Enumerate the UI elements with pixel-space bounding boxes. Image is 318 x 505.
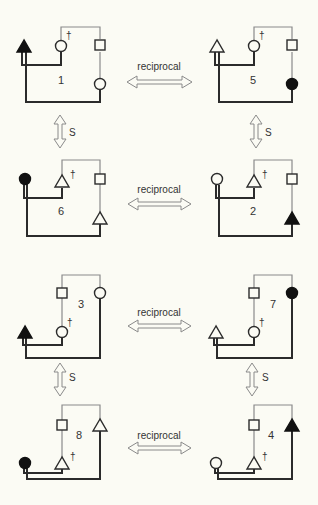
diagram-6: † 6 (20, 160, 108, 236)
dagger-mark: † (262, 451, 268, 462)
triangle-icon (210, 40, 224, 52)
reciprocal-label: reciprocal (137, 61, 180, 72)
circle-icon (249, 327, 260, 338)
square-icon (249, 420, 259, 430)
dagger-mark: † (259, 30, 265, 41)
square-icon (95, 40, 105, 50)
reciprocal-label: reciprocal (137, 307, 180, 318)
thick-line (27, 431, 100, 479)
triangle-icon (93, 419, 107, 431)
square-icon (249, 288, 259, 298)
square-icon (57, 420, 67, 430)
circle-icon (212, 174, 223, 185)
triangle-icon (247, 175, 261, 187)
thick-line (22, 51, 61, 65)
dagger-mark: † (66, 30, 72, 41)
double-arrow-icon (128, 320, 191, 332)
dagger-mark: † (262, 169, 268, 180)
filled-circle-icon (287, 79, 298, 90)
thin-line (62, 405, 100, 420)
triangle-icon (93, 212, 107, 224)
s-relation-3-8: S (54, 363, 76, 396)
filled-triangle-icon (18, 326, 32, 338)
square-icon (287, 174, 297, 184)
triangle-icon (247, 457, 261, 469)
diagram-number: 1 (58, 74, 64, 86)
reciprocal-label: reciprocal (137, 430, 180, 441)
filled-circle-icon (287, 288, 298, 299)
circle-icon (56, 41, 67, 52)
s-label: S (262, 372, 269, 383)
reciprocal-relation-1-5: reciprocal (127, 61, 192, 88)
dagger-mark: † (70, 169, 76, 180)
diagram-number: 8 (76, 429, 82, 441)
vertical-double-arrow-icon (250, 115, 262, 148)
s-label: S (69, 372, 76, 383)
double-arrow-icon (127, 76, 192, 88)
square-icon (95, 174, 105, 184)
vertical-double-arrow-icon (246, 363, 258, 396)
vertical-double-arrow-icon (54, 363, 66, 396)
thin-line (254, 160, 292, 177)
thick-line (215, 52, 254, 65)
dagger-mark: † (67, 317, 73, 328)
reciprocal-relation-8-4: reciprocal (128, 430, 191, 454)
thin-line (62, 275, 100, 288)
filled-triangle-icon (285, 212, 299, 224)
filled-circle-icon (20, 174, 31, 185)
thick-line (214, 338, 254, 345)
diagram-number: 5 (250, 74, 256, 86)
diagram-number: 4 (268, 429, 274, 441)
diagram-3: † 3 (18, 275, 106, 358)
s-relation-5-2: S (250, 115, 272, 148)
thin-line (254, 275, 292, 288)
kinship-diagram-figure: † 1 † 5 reciprocal S S † (0, 0, 318, 505)
diagram-2: † 2 (212, 160, 300, 236)
circle-icon (57, 327, 68, 338)
diagram-number: 2 (250, 205, 256, 217)
thin-line (254, 405, 292, 420)
diagram-number: 6 (58, 205, 64, 217)
diagram-4: † 4 (211, 405, 300, 479)
dagger-mark: † (70, 451, 76, 462)
diagram-8: † 8 (20, 405, 108, 479)
reciprocal-relation-3-7: reciprocal (128, 307, 191, 332)
circle-icon (211, 458, 222, 469)
diagram-number: 3 (78, 298, 84, 310)
diagram-7: † 7 (209, 275, 298, 358)
s-relation-1-6: S (54, 115, 76, 148)
thick-line (23, 338, 62, 345)
circle-icon (95, 79, 106, 90)
reciprocal-label: reciprocal (137, 184, 180, 195)
filled-circle-icon (20, 458, 31, 469)
filled-triangle-icon (285, 419, 299, 431)
square-icon (287, 40, 297, 50)
reciprocal-relation-6-2: reciprocal (128, 184, 191, 210)
s-label: S (69, 127, 76, 138)
vertical-double-arrow-icon (54, 115, 66, 148)
double-arrow-icon (128, 198, 191, 210)
diagram-1: † 1 (17, 27, 106, 102)
circle-icon (95, 288, 106, 299)
filled-triangle-icon (17, 40, 31, 52)
triangle-icon (55, 457, 69, 469)
triangle-icon (55, 175, 69, 187)
diagram-number: 7 (270, 298, 276, 310)
diagram-5: † 5 (210, 27, 298, 102)
circle-icon (249, 41, 260, 52)
triangle-icon (209, 326, 223, 338)
s-relation-7-4: S (246, 363, 269, 396)
dagger-mark: † (259, 317, 265, 328)
double-arrow-icon (128, 442, 191, 454)
square-icon (57, 288, 67, 298)
s-label: S (265, 127, 272, 138)
